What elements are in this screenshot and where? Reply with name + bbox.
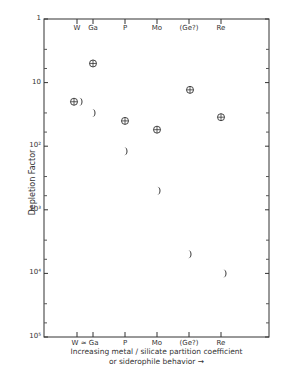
- earth-marker: [122, 117, 129, 124]
- moon-marker: [92, 109, 96, 117]
- y-tick-label: 10⁴: [29, 268, 41, 276]
- moon-marker: [223, 269, 227, 277]
- depletion-factor-chart: [0, 0, 284, 384]
- moon-marker: [124, 147, 128, 155]
- top-category-label: (Ge?): [174, 24, 204, 32]
- top-category-label: Mo: [142, 24, 172, 32]
- y-tick-label: 10: [32, 78, 41, 86]
- moon-marker: [188, 250, 192, 258]
- y-tick-label: 10⁵: [29, 332, 41, 340]
- earth-marker: [154, 126, 161, 133]
- moon-marker: [79, 98, 83, 106]
- y-axis-title: Depletion Factor: [28, 143, 37, 223]
- bottom-category-label: Re: [201, 339, 241, 347]
- bottom-category-label: W ≈ Ga: [65, 339, 105, 347]
- x-axis-ticks: [77, 19, 221, 337]
- earth-marker: [187, 86, 194, 93]
- earth-marker: [90, 60, 97, 67]
- plot-frame: [44, 19, 269, 337]
- top-category-label: Re: [206, 24, 236, 32]
- moon-marker: [157, 187, 161, 195]
- data-points: [71, 60, 227, 277]
- top-category-label: Ga: [78, 24, 108, 32]
- y-axis-ticks: [44, 19, 269, 337]
- y-tick-label: 1: [37, 14, 41, 22]
- x-axis-title-line2: or siderophile behavior →: [44, 357, 269, 366]
- top-category-label: P: [110, 24, 140, 32]
- earth-marker: [71, 98, 78, 105]
- x-axis-title-line1: Increasing metal / silicate partition co…: [44, 347, 269, 356]
- earth-marker: [218, 114, 225, 121]
